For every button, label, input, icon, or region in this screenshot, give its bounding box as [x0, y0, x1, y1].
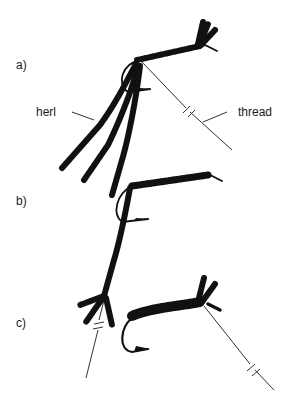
herl-wrap	[132, 175, 208, 186]
thread-line	[204, 306, 250, 364]
hook-bend	[122, 318, 148, 352]
fly-tying-diagram: a) herl thread b)	[0, 0, 292, 411]
panel-c-label: c)	[16, 316, 26, 330]
thread-break-mark	[93, 322, 104, 329]
panel-b: b)	[16, 174, 222, 296]
thread-line	[86, 330, 98, 378]
fly-body	[132, 302, 200, 316]
thread-line	[190, 112, 232, 150]
thread-label: thread	[238, 105, 272, 119]
panel-c: c)	[16, 278, 274, 390]
thread-line	[142, 62, 186, 108]
herl-wrap	[137, 46, 200, 60]
panel-a-label: a)	[16, 58, 27, 72]
herl-tuft	[106, 298, 112, 325]
hook-eye	[208, 304, 220, 310]
thread-break-mark	[247, 364, 260, 376]
thread-line	[255, 370, 274, 390]
panel-a: a) herl thread	[16, 22, 272, 195]
thread-leader	[203, 112, 227, 122]
herl-leader	[72, 112, 94, 120]
panel-b-label: b)	[16, 194, 27, 208]
herl-label: herl	[36, 105, 56, 119]
